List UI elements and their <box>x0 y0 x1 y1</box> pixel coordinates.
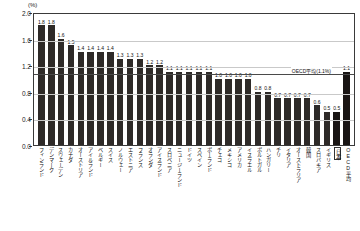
bar: 1.4 <box>107 52 113 145</box>
x-axis-category-label: イタリア <box>285 147 290 167</box>
x-axis-category-label: イスラエル <box>246 147 251 172</box>
bar: 1.5 <box>68 45 74 145</box>
x-axis-category-label: チェコ <box>216 147 221 162</box>
bar-cell: 1.3 <box>125 14 135 145</box>
x-axis-category-label: オーストリア <box>77 147 82 177</box>
bar: 1.1 <box>166 72 172 145</box>
x-axis-label-cell: フィンランド <box>36 147 46 229</box>
bar: 1.4 <box>97 52 103 145</box>
bar: 0.8 <box>265 92 271 145</box>
bar: 1.1 <box>196 72 202 145</box>
gridline <box>34 94 354 95</box>
bar-cell: 1.4 <box>96 14 106 145</box>
x-axis-label-cell: アイスランド <box>154 147 164 229</box>
oecd-average-annotation: OECD平均(1.1%) <box>291 67 332 74</box>
bar-cell: 1.2 <box>145 14 155 145</box>
bar-cell: 1.1 <box>174 14 184 145</box>
bar: 1.0 <box>215 79 221 146</box>
x-axis-label-cell: ポルトガル <box>253 147 263 229</box>
bar: 0.7 <box>294 98 300 145</box>
bar: 1.0 <box>235 79 241 146</box>
x-axis-category-label: 韓国 <box>305 147 310 157</box>
bar-cell: 1.5 <box>66 14 76 145</box>
x-axis-category-label: OECD平均 <box>345 147 350 181</box>
x-axis-category-label: スペイン <box>196 147 201 167</box>
bar: 0.7 <box>304 98 310 145</box>
x-axis-label-cell: オーストリア <box>75 147 85 229</box>
x-axis-category-label: チリ <box>276 147 281 157</box>
bar-value-label: 0.8 <box>254 86 261 91</box>
x-axis-label-cell: フランス <box>135 147 145 229</box>
bar-cell: 0.5 <box>332 14 342 145</box>
bar: 0.6 <box>314 105 320 145</box>
x-axis-label-cell: ハンガリー <box>263 147 273 229</box>
bar-cell: 1.4 <box>105 14 115 145</box>
x-axis-category-label: メキシコ <box>226 147 231 167</box>
bar: 1.1 <box>186 72 192 145</box>
x-axis-label-cell: イタリア <box>283 147 293 229</box>
x-axis-category-label: イギリス <box>325 147 330 167</box>
x-axis-labels: フィンランドデンマークスウェーデンカナダオーストリアアイルランドベルギースイスノ… <box>33 147 355 229</box>
bar-cell: 1.6 <box>56 14 66 145</box>
bar-value-label: 1.4 <box>87 46 94 51</box>
bar-cell: 0.7 <box>302 14 312 145</box>
bar: 1.2 <box>146 65 152 145</box>
bar: 1.6 <box>58 39 64 145</box>
x-axis-category-label: スウェーデン <box>58 147 63 177</box>
x-axis-label-cell: スウェーデン <box>55 147 65 229</box>
bar: 1.1 <box>176 72 182 145</box>
x-axis-label-cell: オランダ <box>144 147 154 229</box>
x-axis-label-cell: スロベニア <box>164 147 174 229</box>
plot-area: 1.81.81.61.51.41.41.41.41.31.31.31.21.21… <box>33 13 355 146</box>
bar-cell: 1.0 <box>243 14 253 145</box>
x-axis-label-cell: ドイツ <box>184 147 194 229</box>
x-axis-category-label: カナダ <box>68 147 73 162</box>
bar: 1.2 <box>156 65 162 145</box>
bar: 1.0 <box>245 79 251 146</box>
x-axis-category-label: デンマーク <box>48 147 53 172</box>
bar-cell: 1.8 <box>46 14 56 145</box>
bar-cell: 0.6 <box>312 14 322 145</box>
bar-cell: 1.1 <box>184 14 194 145</box>
x-axis-label-cell: ポーランド <box>204 147 214 229</box>
x-axis-category-label: フィンランド <box>38 147 43 177</box>
x-axis-label-cell: スイス <box>105 147 115 229</box>
x-axis-label-cell: チリ <box>273 147 283 229</box>
y-axis-tick-label: 2.0 <box>5 10 31 17</box>
bar: 0.7 <box>274 98 280 145</box>
bar-value-label: 1.8 <box>38 20 45 25</box>
bar-value-label: 1.4 <box>107 46 114 51</box>
bar: 1.1 <box>343 72 349 145</box>
bar-value-label: 1.3 <box>117 53 124 58</box>
bar-cell: 1.8 <box>37 14 47 145</box>
bar-cell: 1.1 <box>204 14 214 145</box>
x-axis-category-label: ポーランド <box>206 147 211 172</box>
bar: 1.8 <box>38 25 44 145</box>
bar-cell: 1.1 <box>342 14 352 145</box>
x-axis-label-cell: デンマーク <box>45 147 55 229</box>
bar-cell: 1.4 <box>86 14 96 145</box>
bar: 1.0 <box>225 79 231 146</box>
x-axis-label-cell: メキシコ <box>224 147 234 229</box>
bar-value-label: 0.5 <box>333 106 340 111</box>
x-axis-category-label: ハンガリー <box>266 147 271 172</box>
x-axis-label-cell: アイルランド <box>85 147 95 229</box>
bar-cell: 1.1 <box>194 14 204 145</box>
bar-value-label: 0.6 <box>314 100 321 105</box>
bar-value-label: 1.2 <box>156 60 163 65</box>
x-axis-category-label: ベルギー <box>97 147 102 167</box>
x-axis-category-label: アイルランド <box>87 147 92 177</box>
y-axis-tick-label: 0.0 <box>5 143 31 150</box>
x-axis-category-label: ドイツ <box>186 147 191 162</box>
gridline <box>34 120 354 121</box>
x-axis-label-cell: カナダ <box>65 147 75 229</box>
bar: 1.4 <box>87 52 93 145</box>
bar-cell: 0.7 <box>292 14 302 145</box>
x-axis-label-cell: OECD平均 <box>343 147 353 229</box>
x-axis-label-cell: スロバキア <box>313 147 323 229</box>
bar-cell: 1.3 <box>115 14 125 145</box>
bar-cell: 1.0 <box>224 14 234 145</box>
x-axis-label-cell: オーストラリア <box>293 147 303 229</box>
bar-value-label: 1.3 <box>127 53 134 58</box>
x-axis-label-cell: イスラエル <box>244 147 254 229</box>
